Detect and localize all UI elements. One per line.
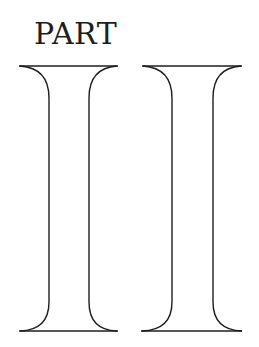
roman-numeral-i-icon <box>19 66 118 331</box>
roman-numeral-ii <box>0 0 259 347</box>
roman-numeral-i-icon <box>141 66 242 331</box>
